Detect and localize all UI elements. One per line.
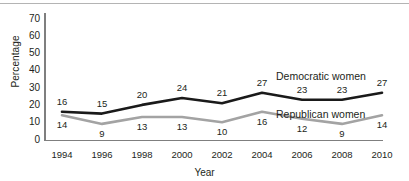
data-point-label: 15	[87, 99, 117, 109]
x-tick-label: 1994	[42, 150, 82, 160]
x-tick-label: 2002	[202, 150, 242, 160]
data-point-label: 23	[327, 85, 357, 95]
data-point-label: 27	[247, 78, 277, 88]
series-label-republican-women: Republican women	[276, 109, 365, 120]
x-tick-label: 2004	[242, 150, 282, 160]
data-point-label: 13	[127, 122, 157, 132]
data-point-label: 16	[47, 97, 77, 107]
data-point-label: 13	[167, 122, 197, 132]
data-point-label: 14	[367, 120, 397, 130]
x-tick-label: 2010	[362, 150, 402, 160]
line-chart: Percentage 010203040506070 1615202421272…	[0, 0, 409, 181]
data-point-label: 24	[167, 83, 197, 93]
data-point-label: 9	[327, 129, 357, 139]
x-axis-title: Year	[0, 167, 409, 178]
data-point-label: 16	[247, 117, 277, 127]
x-tick-label: 2008	[322, 150, 362, 160]
data-point-label: 21	[207, 88, 237, 98]
data-point-label: 10	[207, 127, 237, 137]
data-point-label: 14	[47, 120, 77, 130]
data-point-label: 23	[287, 85, 317, 95]
data-point-label: 9	[87, 129, 117, 139]
x-tick-label: 2000	[162, 150, 202, 160]
x-tick-label: 2006	[282, 150, 322, 160]
x-tick-label: 1998	[122, 150, 162, 160]
data-point-label: 27	[367, 78, 397, 88]
data-point-label: 20	[127, 90, 157, 100]
x-tick-label: 1996	[82, 150, 122, 160]
data-point-label: 12	[287, 124, 317, 134]
series-label-democratic-women: Democratic women	[276, 71, 366, 82]
